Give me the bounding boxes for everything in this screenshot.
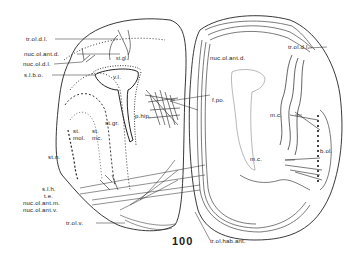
label-st-n: st.n.	[48, 154, 60, 160]
label-p-hip: p.hip.	[135, 113, 151, 119]
left-hemisphere-outline	[56, 19, 186, 231]
label-m-c-lower: m.c.	[250, 156, 262, 162]
label-st-mc: st. mc.	[92, 128, 102, 142]
label-nuc-ol-ant-d-left: nuc.ol.ant.d.	[24, 51, 59, 57]
label-st-gl: st.gl.	[116, 56, 128, 61]
label-b-ol: b.ol.	[320, 148, 332, 154]
right-hemisphere-outline	[189, 16, 342, 240]
label-nuc-ol-ant-m: nuc.ol.ant.m.	[23, 200, 60, 206]
label-tr-ol-hab-ant: tr.ol.hab.ant.	[210, 238, 246, 244]
label-nuc-ol-ant-d-right: nuc.ol.ant.d.	[210, 55, 245, 61]
label-tr-ol-v: tr.ol.v.	[66, 220, 83, 226]
brain-section-drawing	[0, 0, 356, 260]
label-s-l-b-o: s.l.b.o.	[24, 72, 43, 78]
label-nuc-ol-dl: nuc.ol.d.l.	[23, 61, 51, 67]
label-st-mol: st. mol.	[73, 128, 85, 142]
label-v-l: v.l.	[113, 74, 121, 80]
figure-number: 100	[172, 235, 193, 247]
label-s-l-h: s.l.h.	[42, 186, 56, 192]
label-tr-ol-dl-right: tr.ol.d.l.	[288, 44, 309, 50]
label-tr-ol-dl-left: tr.ol.d.l.	[26, 36, 47, 42]
label-f-po: f.po.	[212, 97, 225, 103]
label-t-e: t.e.	[44, 193, 53, 199]
label-st-gr: st.gr.	[105, 120, 119, 126]
label-m-c-upper: m.c.	[270, 112, 282, 118]
label-nuc-ol-ant-v: nuc.ol.ant.v.	[23, 207, 58, 213]
